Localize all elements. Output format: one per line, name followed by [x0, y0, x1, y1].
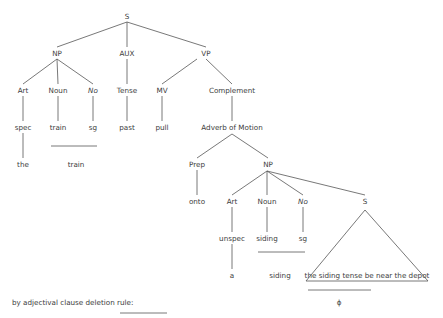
leaf-pull: pull: [155, 123, 168, 132]
node-noun-2: Noun: [258, 197, 277, 206]
leaf-spec: spec: [15, 123, 32, 132]
surface-train: train: [68, 160, 85, 169]
node-adverb-of-motion: Adverb of Motion: [201, 123, 262, 132]
leaf-past: past: [119, 123, 135, 132]
node-no-2: No: [298, 197, 308, 206]
node-art: Art: [18, 86, 29, 95]
leaf-unspec: unspec: [219, 234, 245, 243]
syntax-tree-diagram: S NP AUX VP Art Noun No Tense MV Complem…: [0, 0, 443, 318]
node-s-embedded: S: [363, 197, 368, 206]
leaf-sg-2: sg: [299, 234, 307, 243]
node-np: NP: [52, 49, 62, 58]
deletion-rule-caption: by adjectival clause deletion rule:: [12, 298, 133, 307]
node-complement: Complement: [209, 86, 255, 95]
embedded-clause-text: the siding tense be near the depot: [305, 271, 430, 280]
leaf-siding: siding: [256, 234, 277, 243]
node-no: No: [88, 86, 98, 95]
node-mv: MV: [156, 86, 167, 95]
node-noun: Noun: [49, 86, 68, 95]
leaf-onto: onto: [189, 197, 205, 206]
leaf-sg: sg: [89, 123, 97, 132]
leaf-train: train: [50, 123, 67, 132]
node-tense: Tense: [116, 86, 138, 95]
node-vp: VP: [201, 49, 211, 58]
node-np-2: NP: [263, 160, 273, 169]
phi-symbol: ϕ: [337, 298, 342, 307]
underlines: [51, 146, 371, 313]
node-art-2: Art: [227, 197, 238, 206]
node-aux: AUX: [119, 49, 134, 58]
surface-a: a: [230, 271, 234, 280]
node-prep: Prep: [189, 160, 205, 169]
surface-siding: siding: [269, 271, 290, 280]
surface-the: the: [17, 160, 29, 169]
node-s-root: S: [125, 12, 130, 21]
